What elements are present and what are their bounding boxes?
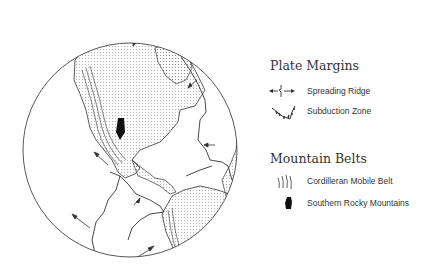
legend-label-subduction-zone: Subduction Zone xyxy=(307,106,371,116)
globe-map xyxy=(0,0,424,279)
legend-label-spreading-ridge: Spreading Ridge xyxy=(307,86,370,96)
south-america xyxy=(162,186,240,262)
cordilleran-belt-icon xyxy=(276,174,296,190)
spreading-ridge-icon xyxy=(268,84,296,98)
legend-label-southern-rocky-mountains: Southern Rocky Mountains xyxy=(307,198,409,208)
legend-heading-mountain-belts: Mountain Belts xyxy=(270,151,367,166)
rocky-mountains-icon xyxy=(284,196,294,210)
subduction-zone-icon xyxy=(270,104,300,122)
legend-heading-plate-margins: Plate Margins xyxy=(270,58,359,73)
legend-label-cordilleran-mobile-belt: Cordilleran Mobile Belt xyxy=(307,176,393,186)
